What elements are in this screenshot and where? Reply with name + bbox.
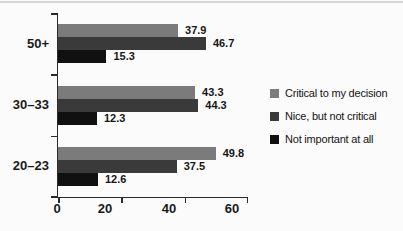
bar-not-important-at-all-30-33 bbox=[58, 112, 97, 125]
grouped-bar-chart-figure: 37.946.715.343.344.312.349.837.512.6 50+… bbox=[0, 0, 403, 231]
bar-critical-to-my-decision-50 bbox=[58, 24, 178, 37]
bar-nice-but-not-critical-50 bbox=[58, 37, 206, 50]
category-label-20-23: 20–23 bbox=[0, 158, 49, 174]
legend-swatch-darkgray-icon bbox=[270, 112, 279, 121]
legend-swatch-gray-icon bbox=[270, 89, 279, 98]
x-tick-label-0: 0 bbox=[42, 201, 72, 216]
value-label-50-nice-but-not-critical: 46.7 bbox=[213, 37, 234, 50]
plot-area: 37.946.715.343.344.312.349.837.512.6 bbox=[57, 13, 248, 198]
x-axis-tick bbox=[185, 198, 187, 203]
legend-item-not-important: Not important at all bbox=[270, 133, 387, 145]
legend: Critical to my decision Nice, but not cr… bbox=[270, 87, 387, 156]
legend-label-nice: Nice, but not critical bbox=[285, 110, 377, 122]
value-label-20-23-critical-to-my-decision: 49.8 bbox=[223, 147, 244, 160]
value-label-30-33-critical-to-my-decision: 43.3 bbox=[202, 86, 223, 99]
value-label-20-23-nice-but-not-critical: 37.5 bbox=[184, 160, 205, 173]
value-label-50-critical-to-my-decision: 37.9 bbox=[185, 24, 206, 37]
value-label-50-not-important-at-all: 15.3 bbox=[113, 50, 134, 63]
x-tick-label-40: 40 bbox=[154, 201, 184, 216]
legend-item-nice: Nice, but not critical bbox=[270, 110, 387, 122]
y-axis-tick bbox=[51, 196, 58, 198]
x-axis-tick bbox=[121, 198, 123, 203]
category-label-50plus: 50+ bbox=[0, 36, 49, 52]
top-divider-line bbox=[0, 1, 403, 3]
bar-critical-to-my-decision-20-23 bbox=[58, 147, 216, 160]
value-label-30-33-not-important-at-all: 12.3 bbox=[104, 112, 125, 125]
legend-swatch-black-icon bbox=[270, 135, 279, 144]
legend-item-critical: Critical to my decision bbox=[270, 87, 387, 99]
legend-label-critical: Critical to my decision bbox=[285, 87, 387, 99]
value-label-20-23-not-important-at-all: 12.6 bbox=[105, 173, 126, 186]
y-axis-tick bbox=[51, 13, 58, 15]
bar-nice-but-not-critical-30-33 bbox=[58, 99, 198, 112]
category-label-30-33: 30–33 bbox=[0, 97, 49, 113]
bar-not-important-at-all-50 bbox=[58, 50, 106, 63]
legend-label-not-important: Not important at all bbox=[285, 133, 373, 145]
bar-not-important-at-all-20-23 bbox=[58, 173, 98, 186]
x-tick-label-20: 20 bbox=[90, 201, 120, 216]
bar-critical-to-my-decision-30-33 bbox=[58, 86, 195, 99]
y-axis-tick bbox=[51, 74, 58, 76]
x-tick-label-60: 60 bbox=[217, 201, 247, 216]
bar-nice-but-not-critical-20-23 bbox=[58, 160, 177, 173]
value-label-30-33-nice-but-not-critical: 44.3 bbox=[205, 99, 226, 112]
y-axis-tick bbox=[51, 136, 58, 138]
